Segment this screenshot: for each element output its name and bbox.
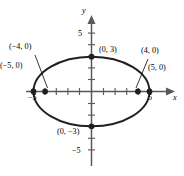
y-tick-label-5: 5 (78, 30, 82, 38)
point-label-0-minus3: (0, −3) (57, 128, 79, 136)
x-tick-label-minus5: −5 (28, 94, 37, 102)
y-axis-arrow-icon (88, 15, 96, 24)
point-0-3 (89, 54, 95, 60)
y-axis-label: y (82, 7, 86, 15)
point-0-minus3 (89, 123, 95, 129)
point-label-5-0: (5, 0) (148, 64, 166, 72)
x-axis-label: x (173, 94, 177, 102)
point-minus4-0 (42, 89, 48, 95)
point-label-minus4-0: (−4, 0) (9, 43, 31, 51)
x-tick-label-5: 5 (148, 94, 152, 102)
point-4-0 (135, 89, 141, 95)
point-label-0-3: (0, 3) (99, 46, 117, 54)
point-label-minus5-0: (−5, 0) (0, 62, 22, 70)
ellipse-plot-svg (0, 0, 184, 176)
y-tick-label-minus5: −5 (72, 147, 81, 155)
ellipse-figure: (−4, 0) (−5, 0) (0, 3) (4, 0) (5, 0) (0,… (0, 0, 184, 176)
point-label-4-0: (4, 0) (141, 47, 159, 55)
